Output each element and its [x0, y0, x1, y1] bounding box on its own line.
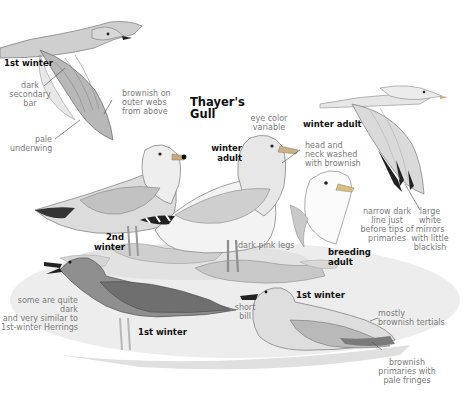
age-label-breeding-adult: breeding adult — [328, 247, 371, 267]
gull-illustrations — [0, 0, 470, 401]
age-label-second-winter: 2nd winter — [94, 232, 124, 252]
age-label-winter-adult-standing: winter adult — [210, 143, 242, 163]
age-label-winter-adult-flight: winter adult — [303, 119, 362, 129]
annotation-mostly-brownish-tertials: mostly brownish tertials — [378, 309, 445, 327]
annotation-head-neck-washed: head and neck washed with brownish — [305, 141, 361, 168]
field-guide-plate: Thayer's Gull 1st winter winter adult 2n… — [0, 0, 470, 401]
annotation-dark-secondary-bar: dark secondary bar — [0, 81, 60, 108]
annotation-pale-underwing: pale underwing — [10, 135, 52, 153]
annotation-large-white-mirrors: large white mirrors with little blackish — [410, 207, 450, 252]
annotation-some-quite-dark: some are quite dark and very similar to … — [0, 296, 78, 332]
breeding-adult-head — [290, 171, 354, 247]
age-label-first-winter-flight: 1st winter — [4, 58, 53, 68]
age-label-first-winter-resting: 1st winter — [296, 290, 345, 300]
annotation-dark-pink-legs: dark pink legs — [238, 241, 294, 250]
annotation-brownish-primaries: brownish primaries with pale fringes — [372, 358, 442, 385]
annotation-eye-color: eye color variable — [244, 114, 294, 132]
annotation-brownish-outer-webs: brownish on outer webs from above — [122, 89, 171, 116]
age-label-first-winter-standing: 1st winter — [138, 327, 187, 337]
annotation-short-bill: short bill — [230, 303, 260, 321]
species-title: Thayer's Gull — [190, 96, 245, 120]
